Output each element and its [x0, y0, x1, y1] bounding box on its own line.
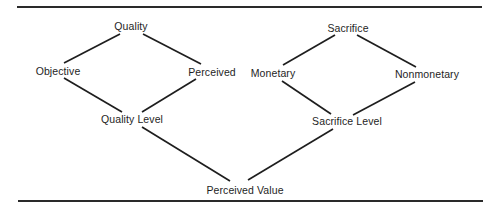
node-nonmonetary: Nonmonetary	[395, 68, 459, 80]
node-quality-level: Quality Level	[101, 113, 163, 125]
edge-sacrifice-level-perceived-value	[248, 129, 333, 180]
node-monetary: Monetary	[251, 67, 296, 79]
node-sacrifice-level: Sacrifice Level	[312, 115, 382, 127]
edge-monetary-sacrifice-level	[282, 81, 331, 114]
node-objective: Objective	[36, 65, 81, 77]
edge-nonmonetary-sacrifice-level	[353, 82, 415, 115]
edge-objective-quality-level	[64, 78, 122, 112]
edge-quality-level-perceived-value	[142, 127, 230, 181]
node-perceived: Perceived	[188, 66, 236, 78]
connector-lines	[0, 0, 498, 211]
node-sacrifice: Sacrifice	[327, 22, 368, 34]
edge-quality-objective	[64, 34, 120, 63]
edge-perceived-quality-level	[142, 79, 196, 112]
edge-quality-perceived	[143, 34, 201, 64]
edge-sacrifice-nonmonetary	[357, 35, 416, 67]
perceived-value-diagram: Quality Objective Perceived Quality Leve…	[0, 0, 498, 211]
edge-sacrifice-monetary	[283, 35, 335, 65]
node-perceived-value: Perceived Value	[206, 184, 283, 196]
node-quality: Quality	[114, 20, 147, 32]
